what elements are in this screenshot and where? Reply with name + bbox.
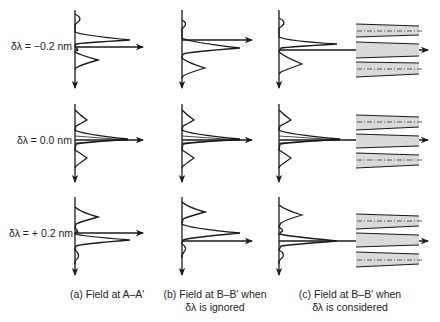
row3-waveguides [356,214,424,267]
caption-a-line1: (a) Field at A–A′ [70,288,144,301]
caption-a: (a) Field at A–A′ [70,288,144,301]
row2-waveguides [356,115,424,168]
caption-c-line2: δλ is considered [295,301,405,314]
caption-c-line1: (c) Field at B–B′ when [295,288,405,301]
row2-col-b [182,104,252,182]
caption-c: (c) Field at B–B′ when δλ is considered [295,288,405,314]
field-diagram [0,0,440,322]
row3-col-b [182,197,252,275]
caption-b-line2: δλ is ignored [160,301,270,314]
row1-col-b [182,10,252,88]
row3-col-a [75,197,143,275]
row2-col-a [75,104,143,182]
row1-col-a [75,10,143,88]
caption-b: (b) Field at B–B′ when δλ is ignored [160,288,270,314]
caption-b-line1: (b) Field at B–B′ when [160,288,270,301]
row1-waveguides [356,24,424,77]
